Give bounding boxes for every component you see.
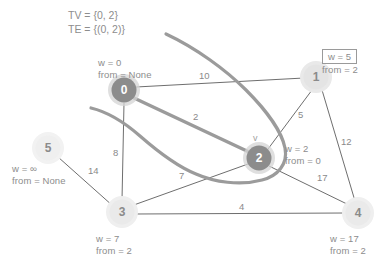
- graph-svg: [0, 0, 386, 268]
- annotation-node-2-w: w = 2: [285, 143, 308, 155]
- edge-0-1: [136, 78, 304, 87]
- edge-weight-0-3: 8: [113, 148, 118, 158]
- annotation-node-1-w-boxed: w = 5: [322, 49, 357, 64]
- diagram-canvas: TV = {0, 2} TE = {(0, 2)} 0 1 2 3 4 5 v …: [0, 0, 386, 268]
- annotation-node-0-from: from = None: [98, 69, 152, 81]
- node-label-0: 0: [117, 83, 131, 97]
- edge-weight-1-4: 12: [341, 137, 352, 147]
- edge-layer: [58, 78, 355, 214]
- edge-weight-2-4: 17: [317, 173, 328, 183]
- annotation-node-3-w: w = 7: [96, 233, 119, 245]
- edge-weight-0-1: 10: [199, 71, 210, 81]
- annotation-node-1-from: from = 2: [322, 64, 358, 76]
- annotation-node-0-w: w = 0: [98, 57, 121, 69]
- edge-3-4: [135, 213, 345, 214]
- node-label-4: 4: [351, 206, 365, 220]
- node-label-5: 5: [41, 141, 55, 155]
- edge-0-3: [122, 103, 124, 200]
- edge-weight-0-2: 2: [193, 112, 198, 122]
- node-label-3: 3: [115, 205, 129, 219]
- tree-edges-set: TE = {(0, 2)}: [68, 22, 125, 36]
- node-layer: [32, 61, 374, 229]
- annotation-node-5-from: from = None: [12, 175, 66, 187]
- annotation-node-5-w: w = ∞: [12, 163, 37, 175]
- annotation-node-3-from: from = 2: [96, 245, 132, 257]
- edge-weight-2-3: 7: [179, 171, 184, 181]
- edge-5-3: [58, 157, 113, 206]
- tree-vertices-set: TV = {0, 2}: [68, 8, 118, 22]
- annotation-node-4-from: from = 2: [330, 245, 366, 257]
- node-label-1: 1: [309, 70, 323, 84]
- annotation-node-2-from: from = 0: [285, 155, 321, 167]
- edge-weight-5-3: 14: [88, 166, 99, 176]
- edge-1-2: [268, 90, 312, 149]
- edge-weight-1-2: 5: [298, 110, 303, 120]
- current-vertex-marker: v: [253, 133, 258, 143]
- annotation-node-4-w: w = 17: [330, 233, 359, 245]
- edge-weight-3-4: 4: [239, 202, 244, 212]
- node-label-2: 2: [252, 151, 266, 165]
- edge-2-4: [269, 166, 349, 205]
